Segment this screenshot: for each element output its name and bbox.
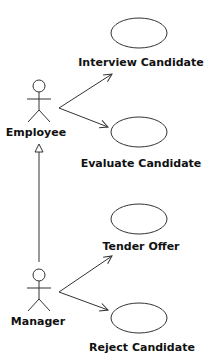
association-arrow-employee-interview[interactable] [59,74,112,108]
use-case-reject-candidate[interactable]: Reject Candidate [89,303,195,354]
use-case-ellipse [111,303,167,333]
use-case-label: Interview Candidate [78,56,203,69]
use-case-tender-offer[interactable]: Tender Offer [102,204,180,253]
stick-figure-icon [27,80,51,122]
use-case-label: Reject Candidate [89,341,195,354]
association-arrow-manager-tender[interactable] [59,256,112,292]
use-case-ellipse [111,204,167,234]
use-case-evaluate-candidate[interactable]: Evaluate Candidate [81,117,202,170]
stick-figure-icon [27,269,51,311]
use-case-diagram: Interview Candidate Evaluate Candidate T… [0,0,213,358]
hollow-triangle-icon [35,144,43,152]
use-case-label: Tender Offer [102,240,180,253]
actor-label: Employee [6,126,66,139]
association-arrow-employee-evaluate[interactable] [59,108,108,127]
actor-label: Manager [11,315,66,328]
use-case-ellipse [111,117,167,147]
association-arrow-manager-reject[interactable] [59,292,108,310]
use-case-interview-candidate[interactable]: Interview Candidate [78,18,203,69]
use-case-label: Evaluate Candidate [81,157,202,170]
generalization-manager-employee[interactable] [35,144,43,262]
use-case-ellipse [111,18,167,48]
actor-manager[interactable]: Manager [11,269,66,328]
actor-employee[interactable]: Employee [6,80,66,139]
